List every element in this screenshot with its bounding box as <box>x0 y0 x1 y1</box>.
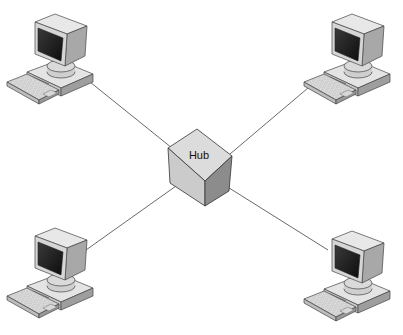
edge-top-left-to-hub <box>90 82 172 148</box>
edge-top-right-to-hub <box>230 88 308 154</box>
computer-top-right <box>304 14 390 104</box>
computer-top-left <box>7 14 93 104</box>
edge-bottom-right-to-hub <box>226 186 328 250</box>
computer-icon <box>304 14 390 104</box>
hub-label: Hub <box>189 149 209 161</box>
computer-bottom-right <box>304 231 390 321</box>
computer-icon <box>7 14 93 104</box>
network-diagram: Hub <box>0 0 403 335</box>
computer-icon <box>304 231 390 321</box>
edge-bottom-left-to-hub <box>86 186 176 250</box>
computer-icon <box>7 228 93 318</box>
computer-bottom-left <box>7 228 93 318</box>
hub: Hub <box>168 129 232 206</box>
